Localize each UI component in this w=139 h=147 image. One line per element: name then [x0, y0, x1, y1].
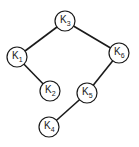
node-K5: K5	[77, 83, 97, 103]
node-K3: K3	[55, 11, 75, 31]
tree-edges	[17, 21, 119, 127]
tree-diagram: K3K1K6K2K5K4	[0, 0, 139, 147]
tree-nodes: K3K1K6K2K5K4	[7, 11, 129, 137]
node-K2: K2	[40, 81, 60, 101]
node-K1: K1	[7, 47, 27, 67]
node-K4: K4	[39, 117, 59, 137]
node-K6: K6	[109, 43, 129, 63]
